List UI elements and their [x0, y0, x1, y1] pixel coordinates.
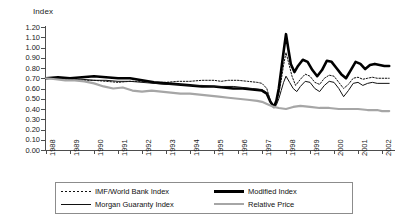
x-axis-tick [166, 150, 167, 154]
x-axis-tick [70, 150, 71, 154]
x-axis-tick [382, 150, 383, 154]
x-axis-tick-label: 1991 [121, 139, 128, 156]
legend-label: Morgan Guaranty Index [95, 200, 174, 209]
y-axis-tick-label: 1.00 [25, 44, 40, 51]
x-axis-tick-label: 1989 [73, 139, 80, 156]
x-axis-tick-label: 1998 [289, 139, 296, 156]
series-line [46, 53, 389, 107]
x-axis-tick-label: 2000 [337, 139, 344, 156]
y-axis-tick-label: 0.20 [25, 126, 40, 133]
y-axis-tick-label: 0.10 [25, 136, 40, 143]
x-axis-tick-label: 1993 [169, 139, 176, 156]
x-axis-tick [358, 150, 359, 154]
x-axis-tick-label: 1999 [313, 139, 320, 156]
x-axis-tick-label: 1994 [193, 139, 200, 156]
y-axis-tick-label: 0.80 [25, 65, 40, 72]
y-axis-line [45, 26, 46, 151]
x-axis-tick-label: 2001 [361, 139, 368, 156]
legend-item: Relative Price [214, 198, 294, 211]
x-axis-tick-label: 1996 [241, 139, 248, 156]
dotted-line-swatch [61, 187, 91, 196]
y-axis-tick-label: 0.00 [25, 147, 40, 154]
y-axis-tick-label: 0.60 [25, 85, 40, 92]
x-axis-tick [118, 150, 119, 154]
y-axis-tick-label: 0.90 [25, 54, 40, 61]
x-axis-tick [310, 150, 311, 154]
x-axis-tick [214, 150, 215, 154]
x-axis-tick [142, 150, 143, 154]
thick-black-line-swatch [214, 187, 244, 196]
y-axis-tick-label: 1.20 [25, 24, 40, 31]
x-axis-tick [46, 150, 47, 154]
x-axis-tick-label: 1988 [49, 139, 56, 156]
x-axis-tick [94, 150, 95, 154]
legend-item: Modified Index [214, 185, 297, 198]
series-line [46, 78, 389, 111]
y-axis-tick-label-group: 1.201.101.000.900.800.700.600.500.400.30… [0, 0, 40, 216]
x-axis-tick-label: 1995 [217, 139, 224, 156]
y-axis-tick-label: 0.50 [25, 95, 40, 102]
chart-legend: IMF/World Bank IndexModified IndexMorgan… [55, 182, 353, 214]
y-axis-tick-label: 0.70 [25, 75, 40, 82]
x-axis-tick-label: 1997 [265, 139, 272, 156]
legend-label: IMF/World Bank Index [95, 187, 169, 196]
x-axis-tick-label: 2002 [385, 139, 392, 156]
x-axis-tick [238, 150, 239, 154]
x-axis-tick [334, 150, 335, 154]
legend-item: Morgan Guaranty Index [61, 198, 174, 211]
legend-label: Modified Index [248, 187, 297, 196]
y-axis-tick-label: 1.10 [25, 34, 40, 41]
thin-black-line-swatch [61, 200, 91, 209]
x-axis-tick [190, 150, 191, 154]
gray-line-swatch [214, 200, 244, 209]
x-axis-tick-label: 1992 [145, 139, 152, 156]
series-line [46, 76, 389, 108]
y-axis-tick-label: 0.30 [25, 116, 40, 123]
chart-figure: Index 1.201.101.000.900.800.700.600.500.… [0, 0, 402, 216]
series-line [46, 34, 389, 107]
legend-item: IMF/World Bank Index [61, 185, 169, 198]
x-axis-tick-label: 1990 [97, 139, 104, 156]
y-axis-tick-label: 0.40 [25, 106, 40, 113]
x-axis-tick [262, 150, 263, 154]
x-axis-tick [286, 150, 287, 154]
legend-label: Relative Price [248, 200, 294, 209]
